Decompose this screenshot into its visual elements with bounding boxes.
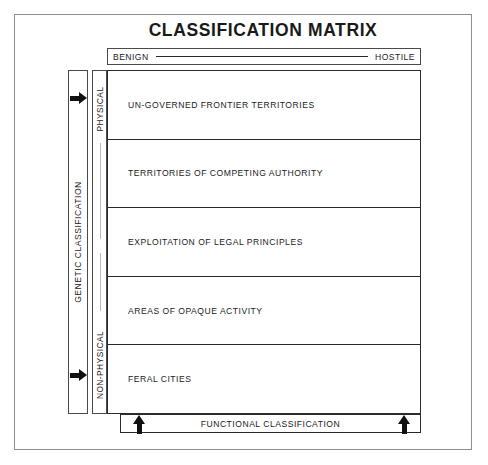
matrix-row-label: TERRITORIES OF COMPETING AUTHORITY bbox=[128, 168, 323, 178]
arrow-right-icon-non-physical bbox=[70, 369, 87, 382]
matrix-row: UN-GOVERNED FRONTIER TERRITORIES bbox=[108, 71, 420, 140]
functional-classification-footer: FUNCTIONAL CLASSIFICATION bbox=[120, 414, 421, 433]
matrix-row: EXPLOITATION OF LEGAL PRINCIPLES bbox=[108, 208, 420, 277]
functional-scale-header: BENIGN HOSTILE bbox=[107, 48, 421, 65]
arrow-right-icon-physical bbox=[70, 92, 87, 105]
matrix-row: TERRITORIES OF COMPETING AUTHORITY bbox=[108, 140, 420, 209]
arrow-shaft bbox=[137, 422, 142, 434]
axis-segment-physical: PHYSICAL bbox=[93, 71, 106, 243]
scale-rule bbox=[156, 56, 368, 57]
arrow-shaft bbox=[402, 422, 407, 434]
scale-label-hostile: HOSTILE bbox=[375, 52, 415, 62]
matrix-row-label: AREAS OF OPAQUE ACTIVITY bbox=[128, 306, 263, 316]
matrix-row-label: EXPLOITATION OF LEGAL PRINCIPLES bbox=[128, 237, 303, 247]
matrix-row-label: UN-GOVERNED FRONTIER TERRITORIES bbox=[128, 100, 315, 110]
matrix-row: FERAL CITIES bbox=[108, 345, 420, 413]
matrix-row-label: FERAL CITIES bbox=[128, 374, 191, 384]
functional-classification-label: FUNCTIONAL CLASSIFICATION bbox=[201, 419, 341, 429]
axis-segment-label-non-physical: NON-PHYSICAL bbox=[95, 331, 105, 399]
arrow-head bbox=[79, 92, 87, 104]
arrow-up-icon-left bbox=[133, 415, 146, 434]
classification-matrix-diagram: CLASSIFICATION MATRIX BENIGN HOSTILE GEN… bbox=[0, 0, 488, 465]
axis-segment-rule-non-physical bbox=[100, 253, 101, 311]
axis-segment-label-physical: PHYSICAL bbox=[95, 86, 105, 131]
genetic-classification-axis: GENETIC CLASSIFICATION bbox=[68, 70, 88, 414]
page-title: CLASSIFICATION MATRIX bbox=[104, 20, 422, 41]
arrow-up-icon-right bbox=[398, 415, 411, 434]
physicality-axis: PHYSICAL NON-PHYSICAL bbox=[92, 70, 107, 414]
genetic-classification-axis-label: GENETIC CLASSIFICATION bbox=[73, 181, 83, 303]
scale-label-benign: BENIGN bbox=[113, 52, 149, 62]
arrow-head bbox=[79, 369, 87, 381]
matrix-row: AREAS OF OPAQUE ACTIVITY bbox=[108, 277, 420, 346]
axis-segment-rule-physical bbox=[100, 143, 101, 239]
matrix-body: UN-GOVERNED FRONTIER TERRITORIES TERRITO… bbox=[107, 70, 421, 414]
axis-segment-non-physical: NON-PHYSICAL bbox=[93, 243, 106, 415]
